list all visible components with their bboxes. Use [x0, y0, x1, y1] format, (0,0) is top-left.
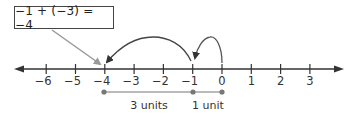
jump-arc-small: [195, 37, 222, 63]
tick-label: −4: [93, 74, 110, 88]
segment-label-3-units: 3 units: [130, 99, 168, 112]
pointer-arrow: [52, 30, 100, 64]
jump-arc-large: [107, 37, 191, 62]
tick-label: −6: [35, 74, 52, 88]
right-arrow-icon: [334, 66, 344, 73]
tick-label: −2: [152, 74, 169, 88]
tick-label: 3: [306, 74, 313, 88]
number-line-diagram: −1 + (−3) = −4 −6−5−4−3−2−10123 3 units …: [0, 0, 353, 117]
equation-box: −1 + (−3) = −4: [14, 6, 114, 29]
segment-point: [101, 89, 106, 94]
tick-label: 1: [248, 74, 255, 88]
tick-label: −3: [123, 74, 140, 88]
left-arrow-icon: [14, 66, 24, 73]
tick-label: −1: [181, 74, 198, 88]
segment-label-1-unit: 1 unit: [192, 99, 224, 112]
tick-label: 0: [218, 74, 225, 88]
tick-label: 2: [277, 74, 284, 88]
number-line-axis: [14, 66, 344, 73]
tick-label: −5: [64, 74, 81, 88]
segment-point: [190, 89, 195, 94]
segment-bar: [101, 89, 224, 94]
segment-point: [219, 89, 224, 94]
